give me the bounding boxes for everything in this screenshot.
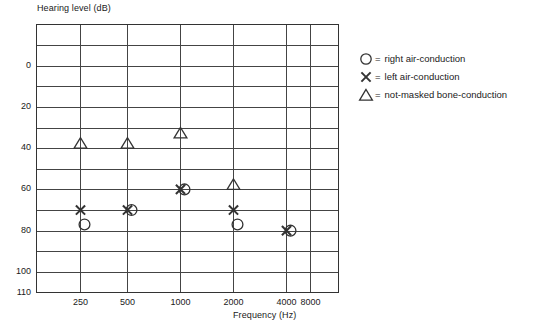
x-tick-label: 250 — [61, 297, 101, 307]
legend-x-icon — [358, 69, 374, 84]
legend-equals-sign: = — [375, 71, 381, 82]
x-tick-label: 2000 — [214, 297, 254, 307]
x-axis-title: Frequency (Hz) — [233, 310, 296, 320]
legend-circle-icon — [358, 51, 374, 66]
x-tick-label: 8000 — [291, 297, 331, 307]
legend-label: not-masked bone-conduction — [385, 89, 508, 100]
data-points — [74, 127, 296, 236]
y-tick-label: 100 — [5, 266, 31, 276]
legend-entry: =left air-conduction — [358, 68, 534, 85]
y-tick-label: 80 — [5, 225, 31, 235]
audiogram-chart: Hearing level (dB) 020406080100110 25050… — [0, 0, 535, 328]
y-tick-label: 20 — [5, 101, 31, 111]
y-tick-label: 110 — [5, 287, 31, 297]
x-tick-label: 1000 — [161, 297, 201, 307]
legend-entry: =right air-conduction — [358, 50, 534, 67]
y-tick-label: 0 — [5, 60, 31, 70]
legend-label: right air-conduction — [385, 53, 466, 64]
gridlines — [37, 25, 339, 293]
y-tick-label: 40 — [5, 142, 31, 152]
x-tick-label: 500 — [108, 297, 148, 307]
legend-triangle-icon — [358, 87, 374, 102]
plot-frame — [37, 25, 339, 293]
legend-entry: =not-masked bone-conduction — [358, 86, 534, 103]
legend-label: left air-conduction — [385, 71, 460, 82]
legend-equals-sign: = — [375, 53, 381, 64]
y-tick-label: 60 — [5, 183, 31, 193]
legend-equals-sign: = — [375, 89, 381, 100]
legend: =right air-conduction=left air-conductio… — [358, 50, 534, 104]
